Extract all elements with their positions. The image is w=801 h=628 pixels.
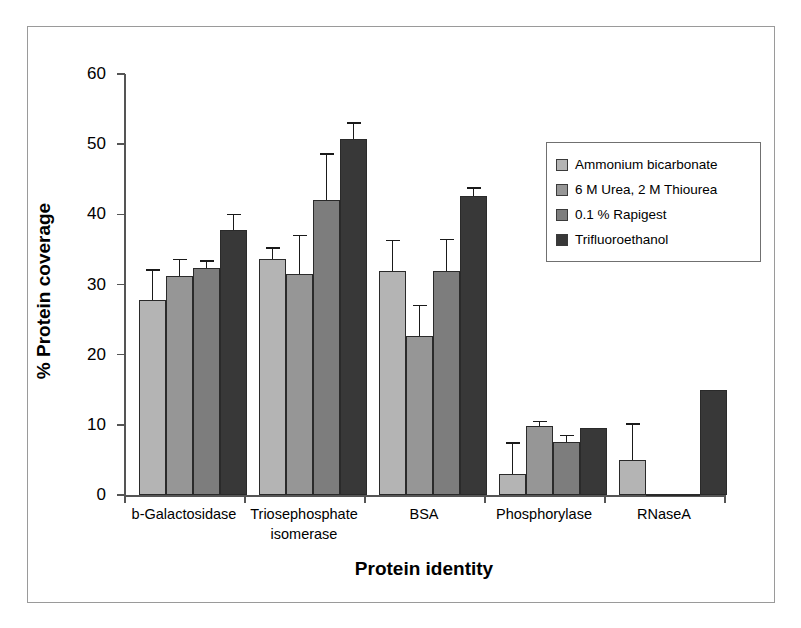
error-bar-cap xyxy=(440,239,454,241)
error-bar-stem xyxy=(632,423,634,459)
bar xyxy=(406,336,433,495)
legend-item: Ammonium bicarbonate xyxy=(556,152,750,177)
bar xyxy=(700,390,727,495)
x-axis-title: Protein identity xyxy=(124,558,724,580)
y-axis-tick xyxy=(117,284,125,286)
bar xyxy=(166,276,193,495)
error-bar-stem xyxy=(512,442,514,474)
bar xyxy=(499,474,526,495)
error-bar-cap xyxy=(347,122,361,124)
error-bar-stem xyxy=(152,269,154,300)
bar xyxy=(340,139,367,495)
error-bar-stem xyxy=(326,153,328,200)
bar xyxy=(673,494,700,496)
error-bar-cap xyxy=(200,260,214,262)
error-bar-cap xyxy=(560,435,574,437)
y-axis-tick-label: 20 xyxy=(62,346,106,363)
legend-label: Trifluoroethanol xyxy=(575,233,668,247)
bar xyxy=(460,196,487,495)
x-axis-tick xyxy=(124,495,126,503)
y-axis-tick-label: 50 xyxy=(62,135,106,152)
error-bar-cap xyxy=(467,187,481,189)
x-axis-tick xyxy=(364,495,366,503)
error-bar-stem xyxy=(419,305,421,336)
legend-swatch xyxy=(556,159,568,171)
legend-item: Trifluoroethanol xyxy=(556,227,750,252)
category-label-line: isomerase xyxy=(229,525,379,545)
error-bar-cap xyxy=(146,269,160,271)
legend-label: 6 M Urea, 2 M Thiourea xyxy=(575,183,717,197)
bar xyxy=(220,230,247,495)
bar xyxy=(193,268,220,495)
bar xyxy=(139,300,166,495)
bar xyxy=(259,259,286,495)
error-bar-cap xyxy=(320,153,334,155)
error-bar-cap xyxy=(266,247,280,249)
y-axis-tick-label: 10 xyxy=(62,416,106,433)
category-label-line: RNaseA xyxy=(589,505,739,525)
bar xyxy=(313,200,340,495)
error-bar-cap xyxy=(506,442,520,444)
error-bar-stem xyxy=(446,239,448,271)
x-axis-tick xyxy=(604,495,606,503)
bar xyxy=(286,274,313,495)
y-axis-tick xyxy=(117,73,125,75)
legend-swatch xyxy=(556,209,568,221)
error-bar-stem xyxy=(299,235,301,274)
error-bar-cap xyxy=(533,421,547,423)
y-axis-title: % Protein coverage xyxy=(33,141,55,441)
legend-item: 0.1 % Rapigest xyxy=(556,202,750,227)
figure: 0102030405060 % Protein coverage Protein… xyxy=(0,0,801,628)
bar xyxy=(646,494,673,496)
bar xyxy=(526,426,553,495)
x-axis-tick xyxy=(724,495,726,503)
error-bar-cap xyxy=(626,423,640,425)
error-bar-stem xyxy=(179,259,181,277)
y-axis-tick xyxy=(117,354,125,356)
error-bar-cap xyxy=(293,235,307,237)
error-bar-cap xyxy=(413,305,427,307)
legend-item: 6 M Urea, 2 M Thiourea xyxy=(556,177,750,202)
bar xyxy=(580,428,607,495)
error-bar-cap xyxy=(386,240,400,242)
bar xyxy=(433,271,460,495)
error-bar-cap xyxy=(173,259,187,261)
x-axis-line xyxy=(124,495,724,497)
legend-swatch xyxy=(556,184,568,196)
x-axis-category-label: RNaseA xyxy=(589,505,739,525)
y-axis-tick xyxy=(117,424,125,426)
error-bar-stem xyxy=(392,240,394,272)
legend: Ammonium bicarbonate6 M Urea, 2 M Thiour… xyxy=(546,142,761,262)
y-axis-tick-label: 0 xyxy=(62,486,106,503)
legend-label: 0.1 % Rapigest xyxy=(575,208,667,222)
y-axis-tick-label: 60 xyxy=(62,65,106,82)
bar xyxy=(379,271,406,495)
x-axis-tick xyxy=(484,495,486,503)
plot-area: 0102030405060 % Protein coverage Protein… xyxy=(0,0,801,628)
y-axis-tick xyxy=(117,214,125,216)
error-bar-stem xyxy=(353,122,355,139)
x-axis-tick xyxy=(244,495,246,503)
error-bar-stem xyxy=(272,247,274,258)
bar xyxy=(553,442,580,495)
bar xyxy=(619,460,646,495)
y-axis-tick-label: 30 xyxy=(62,276,106,293)
error-bar-cap xyxy=(227,214,241,216)
legend-swatch xyxy=(556,234,568,246)
y-axis-tick xyxy=(117,143,125,145)
y-axis-tick-label: 40 xyxy=(62,205,106,222)
legend-label: Ammonium bicarbonate xyxy=(575,158,718,172)
error-bar-stem xyxy=(233,214,235,230)
